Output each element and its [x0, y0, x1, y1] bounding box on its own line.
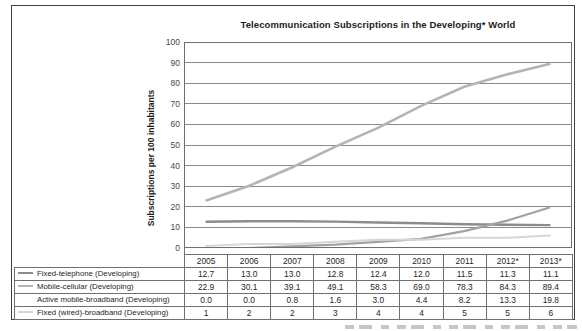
year-label: 2005: [185, 255, 228, 268]
series-name: Fixed (wired)-broadband (Developing): [37, 308, 168, 317]
value-cell: 84.3: [486, 281, 529, 294]
value-cell: 5: [486, 307, 529, 320]
value-cell: 6: [529, 307, 572, 320]
chart-title: Telecommunication Subscriptions in the D…: [184, 19, 572, 30]
table-row: Mobile-cellular (Developing)22.930.139.1…: [15, 281, 573, 294]
series-name: Mobile-cellular (Developing): [37, 282, 134, 291]
chart-frame: Telecommunication Subscriptions in the D…: [11, 5, 575, 320]
year-label: 2013*: [529, 255, 572, 268]
value-cell: 4: [400, 307, 443, 320]
table-row: Fixed-telephone (Developing)12.713.013.0…: [15, 268, 573, 281]
value-cell: 11.1: [529, 268, 572, 281]
value-cell: 2: [271, 307, 314, 320]
legend-cell: Mobile-cellular (Developing): [15, 281, 185, 294]
value-cell: 11.3: [486, 268, 529, 281]
year-label: 2010: [400, 255, 443, 268]
value-cell: 19.8: [529, 294, 572, 307]
table-row: Fixed (wired)-broadband (Developing)1223…: [15, 307, 573, 320]
value-cell: 22.9: [185, 281, 228, 294]
value-cell: 58.3: [357, 281, 400, 294]
y-tick-label: 70: [171, 99, 180, 109]
value-cell: 5: [443, 307, 486, 320]
screenshot-page: Telecommunication Subscriptions in the D…: [0, 0, 582, 331]
y-tick-label: 20: [171, 202, 180, 212]
data-table: 20052006200720082009201020112012*2013*Fi…: [14, 254, 573, 320]
value-cell: 2: [228, 307, 271, 320]
y-tick-label: 50: [171, 140, 180, 150]
legend-line-marker: [18, 311, 33, 314]
value-cell: 30.1: [228, 281, 271, 294]
legend-cell: Fixed (wired)-broadband (Developing): [15, 307, 185, 320]
year-label: 2008: [314, 255, 357, 268]
legend-line-marker: [18, 272, 33, 275]
y-tick-label: 90: [171, 58, 180, 68]
y-tick-label: 60: [171, 119, 180, 129]
value-cell: 13.0: [228, 268, 271, 281]
series-line-3: [206, 236, 551, 246]
y-tick-label: 0: [175, 243, 180, 253]
value-cell: 39.1: [271, 281, 314, 294]
gridlines: [184, 63, 572, 228]
value-cell: 12.4: [357, 268, 400, 281]
value-cell: 0.8: [271, 294, 314, 307]
legend-line-marker: [18, 298, 33, 301]
value-cell: 4: [357, 307, 400, 320]
year-label: 2006: [228, 255, 271, 268]
year-label: 2007: [271, 255, 314, 268]
year-label: 2009: [357, 255, 400, 268]
value-cell: 3: [314, 307, 357, 320]
series-name: Active mobile-broadband (Developing): [37, 295, 170, 304]
value-cell: 13.3: [486, 294, 529, 307]
value-cell: 11.5: [443, 268, 486, 281]
value-cell: 4.4: [400, 294, 443, 307]
year-label: 2012*: [486, 255, 529, 268]
value-cell: 89.4: [529, 281, 572, 294]
y-tick-label: 40: [171, 161, 180, 171]
legend-line-marker: [18, 285, 33, 288]
year-header-row: 20052006200720082009201020112012*2013*: [15, 255, 573, 268]
value-cell: 12.7: [185, 268, 228, 281]
value-cell: 12.0: [400, 268, 443, 281]
legend-cell: Active mobile-broadband (Developing): [15, 294, 185, 307]
value-cell: 1: [185, 307, 228, 320]
y-tick-label: 100: [166, 37, 180, 47]
y-tick-label: 30: [171, 181, 180, 191]
series-line-1: [206, 64, 551, 201]
value-cell: 13.0: [271, 268, 314, 281]
value-cell: 1.6: [314, 294, 357, 307]
series-name: Fixed-telephone (Developing): [37, 269, 139, 278]
cropped-caption-fragment: [345, 325, 577, 329]
y-tick-label: 10: [171, 222, 180, 232]
table-row: Active mobile-broadband (Developing)0.00…: [15, 294, 573, 307]
plot-area: [184, 42, 572, 248]
value-cell: 49.1: [314, 281, 357, 294]
legend-cell: Fixed-telephone (Developing): [15, 268, 185, 281]
value-cell: 0.0: [228, 294, 271, 307]
value-cell: 69.0: [400, 281, 443, 294]
y-tick-label: 80: [171, 78, 180, 88]
year-label: 2011: [443, 255, 486, 268]
value-cell: 12.8: [314, 268, 357, 281]
value-cell: 78.3: [443, 281, 486, 294]
table-corner: [15, 255, 185, 268]
value-cell: 0.0: [185, 294, 228, 307]
value-cell: 3.0: [357, 294, 400, 307]
value-cell: 8.2: [443, 294, 486, 307]
